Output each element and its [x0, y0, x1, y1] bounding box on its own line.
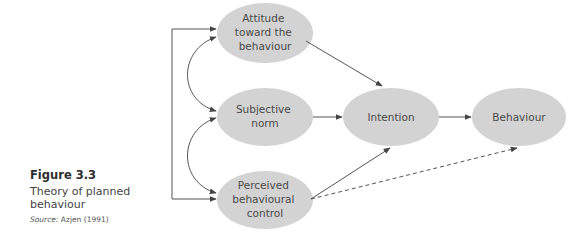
intention-label: Intention — [367, 111, 414, 123]
perceived-control-line-1: Perceived — [238, 179, 289, 191]
figure-title-line-2: behaviour — [30, 198, 170, 211]
source-text: Azjen (1991) — [58, 215, 108, 224]
behaviour-label: Behaviour — [492, 111, 546, 123]
svg-text:Behaviour: Behaviour — [492, 111, 546, 123]
edge-perceived-intention — [311, 148, 390, 199]
svg-text:Attitude toward the: Attitude toward the behaviour — [235, 12, 295, 52]
attitude-line-2: toward the — [235, 26, 292, 38]
edge-attitude-intention — [306, 41, 382, 86]
figure-caption: Figure 3.3 Theory of planned behaviour S… — [30, 168, 170, 225]
source-label: Source: — [30, 215, 58, 224]
node-behaviour: Behaviour — [472, 88, 566, 146]
attitude-line-1: Attitude — [242, 12, 284, 24]
edge-perceived-behaviour-dashed — [311, 148, 517, 199]
figure-title: Theory of planned behaviour — [30, 185, 170, 211]
attitude-line-3: behaviour — [239, 40, 292, 52]
edge-subjective-perceived-curve — [188, 118, 217, 193]
node-attitude: Attitude toward the behaviour — [217, 3, 313, 63]
figure-number: Figure 3.3 — [30, 168, 170, 183]
svg-text:Intention: Intention — [367, 111, 414, 123]
edge-attitude-subjective-curve — [188, 37, 217, 111]
perceived-control-line-2: behavioural — [232, 193, 294, 205]
node-perceived-control: Perceived behavioural control — [217, 171, 313, 229]
subjective-norm-line-1: Subjective — [236, 103, 291, 115]
node-subjective-norm: Subjective norm — [217, 88, 313, 146]
subjective-norm-line-2: norm — [251, 117, 278, 129]
edge-attitude-perceived-bracket — [172, 29, 216, 199]
node-intention: Intention — [343, 88, 439, 146]
perceived-control-line-3: control — [247, 207, 283, 219]
figure-source: Source: Azjen (1991) — [30, 214, 170, 225]
figure-title-line-1: Theory of planned — [30, 185, 170, 198]
